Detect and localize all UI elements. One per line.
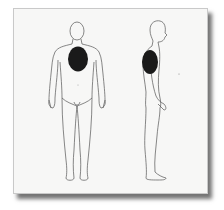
- front-chest-highlight: [68, 47, 88, 72]
- side-chest-highlight: [142, 50, 158, 74]
- front-body-outline: [49, 22, 106, 180]
- speck: [178, 73, 179, 74]
- body-diagram: [0, 0, 224, 210]
- speck: [78, 85, 79, 86]
- side-body-outline: [143, 21, 167, 180]
